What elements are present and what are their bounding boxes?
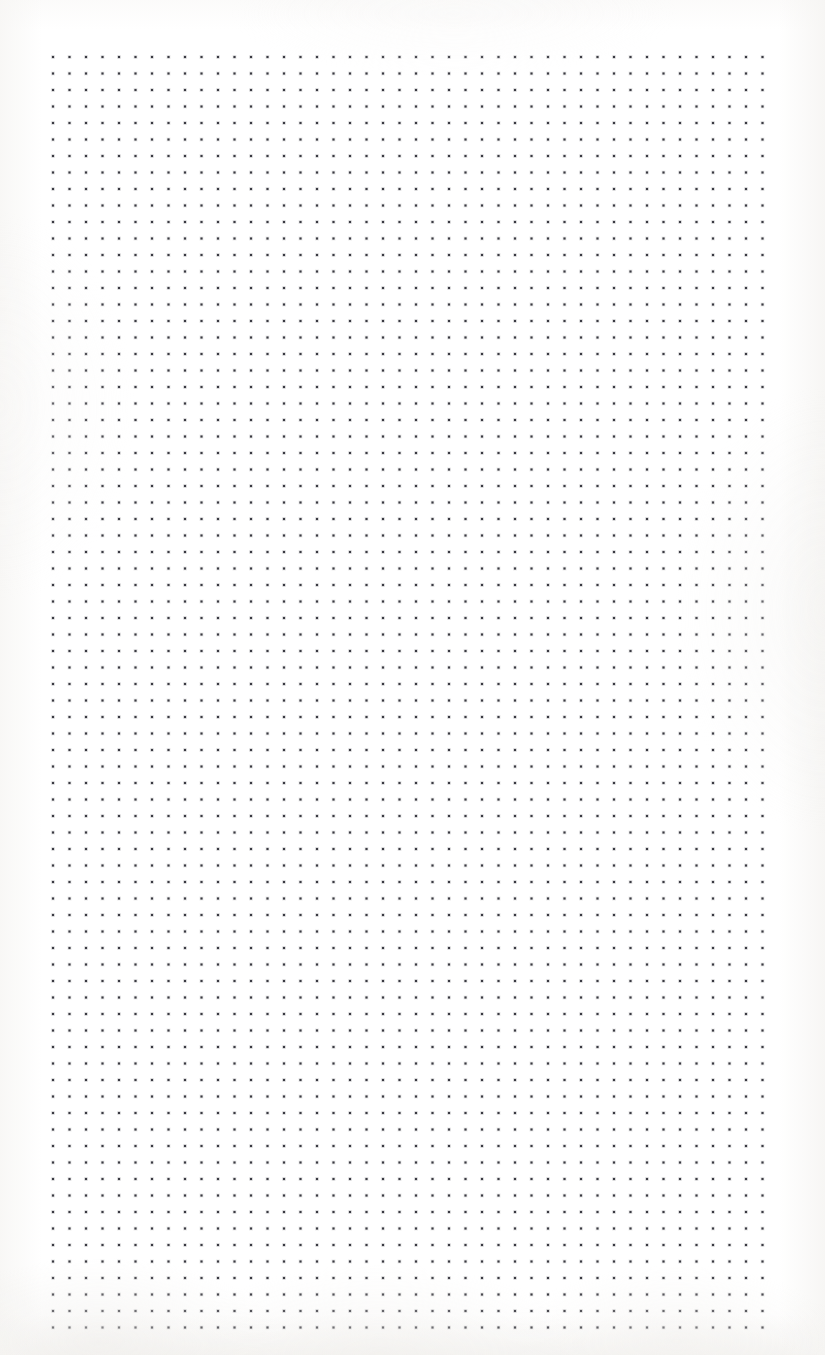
dot-grid-layer — [0, 0, 825, 1355]
dot-grid-canvas — [0, 0, 825, 1355]
paper-edge-tint — [0, 0, 825, 1355]
dot-grid-page — [0, 0, 825, 1355]
paper-grain-overlay — [0, 0, 825, 1355]
